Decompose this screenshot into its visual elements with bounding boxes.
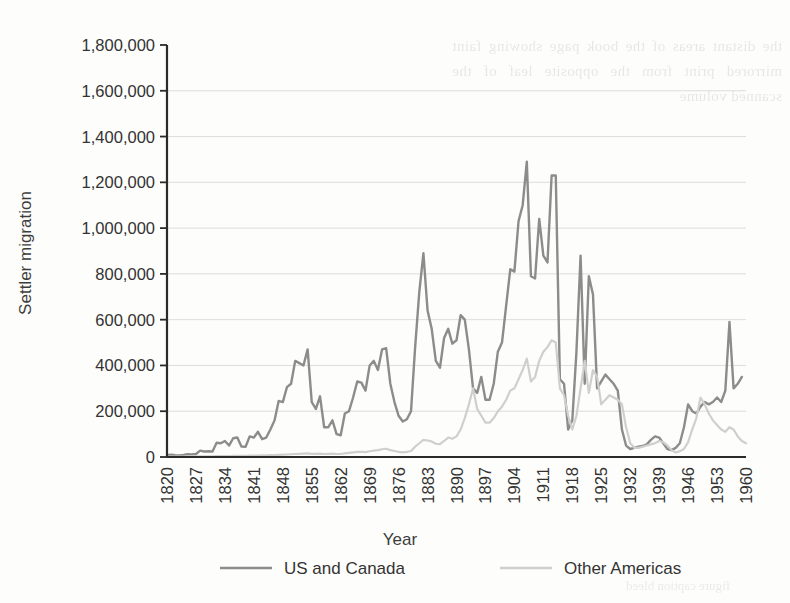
x-tick-labels-group: 1820182718341841184818551862186918761883…	[158, 467, 755, 504]
x-tick-label: 1841	[245, 467, 263, 504]
y-tick-label: 0	[146, 448, 155, 466]
x-tick-label: 1904	[505, 467, 523, 504]
x-tick-label: 1820	[158, 467, 176, 504]
x-tick-label: 1939	[650, 467, 668, 504]
x-tick-label: 1855	[303, 467, 321, 504]
x-tick-label: 1897	[476, 467, 494, 504]
x-tick-label: 1925	[592, 467, 610, 504]
legend: US and CanadaOther Americas	[220, 559, 681, 578]
x-tick-label: 1890	[448, 467, 466, 504]
x-tick-label: 1932	[621, 467, 639, 504]
chart-canvas: 0200,000400,000600,000800,0001,000,0001,…	[0, 0, 790, 603]
gridlines-group	[167, 91, 746, 411]
y-axis-title: Settler migration	[16, 191, 35, 315]
y-tick-label: 200,000	[95, 402, 155, 420]
y-tick-label: 1,200,000	[82, 173, 155, 191]
x-tick-label: 1946	[679, 467, 697, 504]
x-tick-label: 1848	[274, 467, 292, 504]
x-tick-label: 1911	[534, 467, 552, 502]
y-tick-label: 600,000	[95, 311, 155, 329]
y-tick-label: 400,000	[95, 356, 155, 374]
series-group	[167, 162, 746, 457]
x-tick-label: 1869	[361, 467, 379, 504]
axes-group	[160, 45, 746, 457]
y-tick-label: 1,400,000	[82, 128, 155, 146]
y-tick-label: 1,600,000	[82, 82, 155, 100]
x-tick-label: 1953	[708, 467, 726, 504]
x-tick-label: 1960	[737, 467, 755, 504]
y-tick-label: 1,000,000	[82, 219, 155, 237]
x-axis-title: Year	[383, 530, 418, 549]
y-tick-labels-group: 0200,000400,000600,000800,0001,000,0001,…	[82, 36, 155, 466]
legend-label-0: US and Canada	[284, 559, 406, 578]
x-tick-label: 1827	[187, 467, 205, 504]
y-tick-label: 1,800,000	[82, 36, 155, 54]
y-tick-label: 800,000	[95, 265, 155, 283]
x-tick-label: 1876	[390, 467, 408, 504]
legend-label-1: Other Americas	[564, 559, 681, 578]
x-tick-label: 1834	[216, 467, 234, 504]
x-tick-label: 1918	[563, 467, 581, 504]
x-tick-label: 1862	[332, 467, 350, 504]
settler-migration-chart: 0200,000400,000600,000800,0001,000,0001,…	[0, 0, 790, 603]
x-tick-label: 1883	[419, 467, 437, 504]
